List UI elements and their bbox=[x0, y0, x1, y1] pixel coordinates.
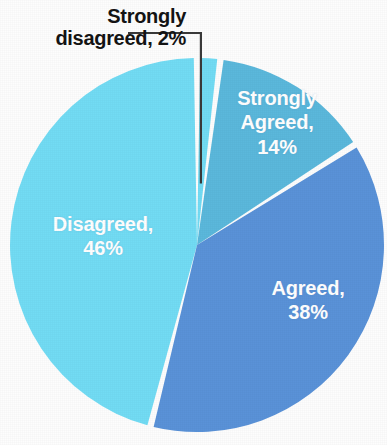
pie-chart-figure: Strongly disagreed, 2% Strongly Agreed, … bbox=[0, 0, 387, 445]
pie-chart-canvas bbox=[0, 0, 387, 445]
